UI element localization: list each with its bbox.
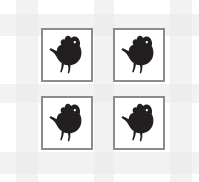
lattice-knot xyxy=(170,14,192,36)
lattice-knot xyxy=(170,152,192,174)
lattice-knot xyxy=(170,84,192,103)
chicken-card-top-right[interactable]: Chicken xyxy=(113,28,165,82)
chicken-silhouette-icon xyxy=(49,102,85,144)
lattice-band-vertical-left xyxy=(16,0,38,182)
chicken-card-grid: Chicken Chicken Chicken Chicken xyxy=(41,28,165,150)
chicken-silhouette-icon xyxy=(121,102,157,144)
chicken-card-top-left[interactable]: Chicken xyxy=(41,28,93,82)
lattice-knot xyxy=(16,84,38,103)
lattice-knot xyxy=(16,152,38,174)
chicken-card-bottom-right[interactable]: Chicken xyxy=(113,96,165,150)
screenshot-canvas: Chicken Chicken Chicken Chicken xyxy=(0,0,199,182)
lattice-band-vertical-right xyxy=(170,0,192,182)
lattice-knot xyxy=(94,152,114,174)
chicken-silhouette-icon xyxy=(49,34,85,76)
lattice-knot xyxy=(16,14,38,36)
lattice-band-horizontal-bottom xyxy=(0,152,199,174)
chicken-card-bottom-left[interactable]: Chicken xyxy=(41,96,93,150)
chicken-silhouette-icon xyxy=(121,34,157,76)
